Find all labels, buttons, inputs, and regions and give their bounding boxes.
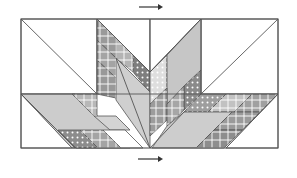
quilt-block-svg	[0, 0, 297, 178]
bottom-press-arrow-icon	[138, 156, 163, 162]
quilt-block-diagram	[0, 0, 297, 178]
top-press-arrow-icon	[139, 4, 163, 10]
